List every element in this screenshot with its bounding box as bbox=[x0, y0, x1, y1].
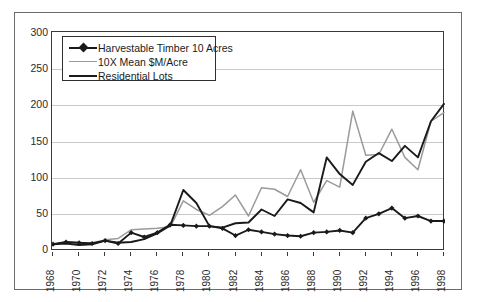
x-tick-label: 1982 bbox=[228, 270, 239, 292]
legend-item-harvestable-timber: Harvestable Timber 10 Acres bbox=[68, 41, 210, 54]
x-tick-mark bbox=[313, 252, 314, 256]
series-marker bbox=[298, 234, 303, 239]
x-tick-label: 1984 bbox=[254, 270, 265, 292]
x-tick-label: 1970 bbox=[71, 270, 82, 292]
y-tick-label: 150 bbox=[14, 136, 48, 146]
x-tick-mark bbox=[78, 252, 79, 256]
series-marker bbox=[311, 230, 316, 235]
x-tick-label: 1994 bbox=[384, 270, 395, 292]
x-tick-label: 1990 bbox=[332, 270, 343, 292]
series-marker bbox=[272, 231, 277, 236]
y-tick-label: 100 bbox=[14, 172, 48, 182]
x-tick-mark bbox=[365, 252, 366, 256]
chart-figure: 050100150200250300 196819701972197419761… bbox=[0, 0, 477, 302]
legend-item-residential-lots: Residential Lots bbox=[68, 69, 210, 82]
legend-swatch-line-black-icon bbox=[68, 70, 98, 82]
x-tick-mark bbox=[208, 252, 209, 256]
x-tick-mark bbox=[156, 252, 157, 256]
x-tick-mark bbox=[391, 252, 392, 256]
x-tick-label: 1996 bbox=[410, 270, 421, 292]
x-tick-mark bbox=[52, 252, 53, 256]
x-tick-label: 1988 bbox=[306, 270, 317, 292]
chart-legend: Harvestable Timber 10 Acres 10X Mean $M/… bbox=[62, 36, 216, 81]
series-marker bbox=[415, 213, 420, 218]
series-marker bbox=[194, 224, 199, 229]
x-tick-mark bbox=[443, 252, 444, 256]
x-tick-mark bbox=[417, 252, 418, 256]
series-line-10x-mean-m-acre bbox=[53, 111, 444, 244]
x-tick-label: 1968 bbox=[45, 270, 56, 292]
x-tick-label: 1992 bbox=[358, 270, 369, 292]
legend-swatch-line-gray-icon bbox=[68, 56, 98, 68]
series-marker bbox=[259, 229, 264, 234]
series-marker bbox=[285, 233, 290, 238]
x-tick-label: 1976 bbox=[149, 270, 160, 292]
x-tick-mark bbox=[104, 252, 105, 256]
series-marker bbox=[324, 229, 329, 234]
y-axis: 050100150200250300 bbox=[12, 31, 48, 250]
y-tick-label: 50 bbox=[14, 208, 48, 218]
legend-item-mean-per-acre: 10X Mean $M/Acre bbox=[68, 55, 210, 68]
series-marker bbox=[337, 228, 342, 233]
x-tick-mark bbox=[235, 252, 236, 256]
x-tick-label: 1972 bbox=[97, 270, 108, 292]
x-axis: 1968197019721974197619781980198219841986… bbox=[51, 252, 444, 292]
series-marker bbox=[103, 238, 108, 243]
y-tick-label: 0 bbox=[14, 244, 48, 254]
x-tick-label: 1998 bbox=[436, 270, 447, 292]
series-marker bbox=[181, 223, 186, 228]
x-tick-mark bbox=[287, 252, 288, 256]
legend-label-0: Harvestable Timber 10 Acres bbox=[98, 42, 233, 54]
legend-label-1: 10X Mean $M/Acre bbox=[98, 56, 188, 68]
legend-swatch-line-marker-icon bbox=[68, 42, 98, 54]
x-tick-mark bbox=[182, 252, 183, 256]
x-tick-label: 1978 bbox=[175, 270, 186, 292]
y-tick-label: 250 bbox=[14, 63, 48, 73]
series-line-residential-lots bbox=[53, 104, 444, 245]
y-tick-label: 200 bbox=[14, 99, 48, 109]
series-marker bbox=[441, 218, 445, 223]
x-tick-mark bbox=[339, 252, 340, 256]
x-tick-mark bbox=[261, 252, 262, 256]
y-tick-label: 300 bbox=[14, 27, 48, 37]
legend-label-2: Residential Lots bbox=[98, 70, 173, 82]
series-marker bbox=[428, 218, 433, 223]
x-tick-label: 1974 bbox=[123, 270, 134, 292]
x-tick-mark bbox=[130, 252, 131, 256]
x-tick-label: 1986 bbox=[280, 270, 291, 292]
series-marker bbox=[52, 242, 56, 247]
x-tick-label: 1980 bbox=[201, 270, 212, 292]
